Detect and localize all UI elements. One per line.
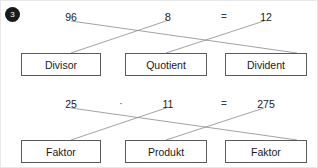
operator-multiplication: · <box>106 98 136 109</box>
answer-box-quotient[interactable]: Quotient <box>125 53 207 76</box>
term-quotient-12: 12 <box>251 11 281 23</box>
term-produkt-275: 275 <box>249 98 283 110</box>
connector-8-to-divisor <box>71 21 166 53</box>
term-dividend-96: 96 <box>56 11 86 23</box>
term-faktor-25: 25 <box>56 98 86 110</box>
connector-275-to-produkt <box>166 108 264 140</box>
connector-96-to-divident <box>71 21 297 53</box>
answer-box-produkt[interactable]: Produkt <box>125 140 207 163</box>
term-divisor-8: 8 <box>153 11 183 23</box>
answer-box-faktor-left[interactable]: Faktor <box>21 140 101 163</box>
numbered-bullet-icon: 3 <box>5 7 20 22</box>
operator-equals-top: = <box>209 11 239 22</box>
term-faktor-11: 11 <box>153 98 183 110</box>
connector-12-to-quotient <box>166 21 264 53</box>
answer-box-divisor[interactable]: Divisor <box>21 53 101 76</box>
answer-box-divident[interactable]: Divident <box>225 53 307 76</box>
worksheet-canvas: 3 96 : 8 = 12 Divisor Quotient Divident … <box>0 0 318 168</box>
answer-box-faktor-right[interactable]: Faktor <box>225 140 307 163</box>
operator-equals-bottom: = <box>209 98 239 109</box>
connector-25-to-right-faktor <box>71 108 297 140</box>
connector-11-to-left-faktor <box>71 108 166 140</box>
